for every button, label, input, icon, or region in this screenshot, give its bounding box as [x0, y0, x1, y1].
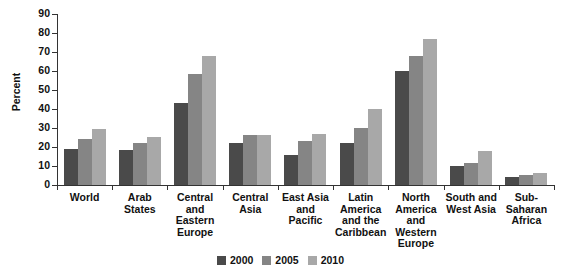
x-axis-tick [167, 185, 168, 190]
legend-swatch-icon [217, 256, 226, 265]
bar-group-bars [333, 14, 388, 185]
bar-2005-8 [519, 175, 533, 185]
y-axis-tick [52, 147, 57, 148]
y-axis-tick-label: 10 [22, 160, 50, 171]
y-axis-tick [52, 166, 57, 167]
bar-group-bars [112, 14, 167, 185]
bar-2005-1 [133, 143, 147, 185]
x-axis-category-label: East Asia and Pacific [278, 192, 333, 227]
x-axis-tick [388, 185, 389, 190]
bar-2005-3 [243, 135, 257, 185]
plot-area [57, 14, 554, 185]
bar-2005-7 [464, 163, 478, 185]
bar-2010-2 [202, 56, 216, 185]
x-axis-category-label: Arab States [112, 192, 167, 215]
y-axis-tick [52, 128, 57, 129]
bar-2010-6 [423, 39, 437, 185]
legend-swatch-icon [308, 256, 317, 265]
bar-2000-4 [284, 155, 298, 185]
bar-group [167, 14, 222, 185]
bar-group [444, 14, 499, 185]
bar-2005-5 [354, 128, 368, 185]
legend-item-2005[interactable]: 2005 [262, 254, 298, 266]
x-axis-tick [333, 185, 334, 190]
x-axis-tick [57, 185, 58, 190]
y-axis-tick [52, 90, 57, 91]
bar-group-bars [444, 14, 499, 185]
bar-2010-0 [92, 129, 106, 185]
y-axis-tick-label: 70 [22, 46, 50, 57]
y-axis-tick-label: 20 [22, 141, 50, 152]
bar-group [499, 14, 554, 185]
legend-swatch-icon [262, 256, 271, 265]
x-axis-category-label: Latin America and the Caribbean [333, 192, 388, 238]
bar-2000-7 [450, 166, 464, 185]
legend-label: 2005 [275, 254, 298, 266]
y-axis-tick [52, 33, 57, 34]
bar-group [223, 14, 278, 185]
bar-group-bars [57, 14, 112, 185]
bar-2010-7 [478, 151, 492, 185]
y-axis-tick-label: 80 [22, 27, 50, 38]
y-axis-tick-label: 30 [22, 122, 50, 133]
legend-label: 2000 [230, 254, 253, 266]
x-axis-category-label: Central and Eastern Europe [167, 192, 222, 238]
legend-item-2010[interactable]: 2010 [308, 254, 344, 266]
bar-2005-6 [409, 56, 423, 185]
y-axis-tick-labels: 0102030405060708090 [22, 6, 50, 192]
chart-legend: 200020052010 [0, 254, 561, 266]
x-axis-tick [554, 185, 555, 190]
bar-group-bars [278, 14, 333, 185]
x-axis-tick [444, 185, 445, 190]
bar-2010-8 [533, 173, 547, 185]
y-axis-tick [52, 71, 57, 72]
bar-2010-1 [147, 137, 161, 185]
bar-group [57, 14, 112, 185]
bar-2000-3 [229, 143, 243, 185]
y-axis-tick-label: 50 [22, 84, 50, 95]
bar-2000-8 [505, 177, 519, 185]
bar-group-bars [499, 14, 554, 185]
bar-2000-1 [119, 150, 133, 185]
x-axis-category-label: World [57, 192, 112, 204]
bar-group [278, 14, 333, 185]
bar-2000-2 [174, 103, 188, 185]
bar-2005-2 [188, 74, 202, 185]
bar-group [388, 14, 443, 185]
x-axis-category-label: Central Asia [223, 192, 278, 215]
bar-group-bars [223, 14, 278, 185]
bar-2005-4 [298, 141, 312, 185]
bar-2005-0 [78, 139, 92, 185]
bar-group-bars [167, 14, 222, 185]
x-axis-category-label: South and West Asia [444, 192, 499, 215]
x-axis-tick [278, 185, 279, 190]
x-axis-line [57, 185, 554, 186]
y-axis-tick [52, 52, 57, 53]
x-axis-category-label: North America and Western Europe [388, 192, 443, 250]
bar-group [112, 14, 167, 185]
bar-chart: Percent 0102030405060708090 200020052010… [0, 0, 561, 273]
bar-2000-6 [395, 71, 409, 185]
x-axis-tick [499, 185, 500, 190]
legend-label: 2010 [321, 254, 344, 266]
y-axis-tick-label: 60 [22, 65, 50, 76]
x-axis-tick [223, 185, 224, 190]
bar-2000-0 [64, 149, 78, 185]
y-axis-tick-label: 40 [22, 103, 50, 114]
x-axis-tick [112, 185, 113, 190]
y-axis-tick-label: 0 [22, 179, 50, 190]
y-axis-tick [52, 109, 57, 110]
legend-item-2000[interactable]: 2000 [217, 254, 253, 266]
y-axis-tick [52, 14, 57, 15]
bar-2010-4 [312, 134, 326, 185]
bar-2000-5 [340, 143, 354, 185]
bar-2010-5 [368, 109, 382, 185]
bar-2010-3 [257, 135, 271, 185]
bar-group-bars [388, 14, 443, 185]
x-axis-category-label: Sub- Saharan Africa [499, 192, 554, 227]
y-axis-title: Percent [10, 57, 22, 127]
y-axis-tick-label: 90 [22, 8, 50, 19]
bar-group [333, 14, 388, 185]
